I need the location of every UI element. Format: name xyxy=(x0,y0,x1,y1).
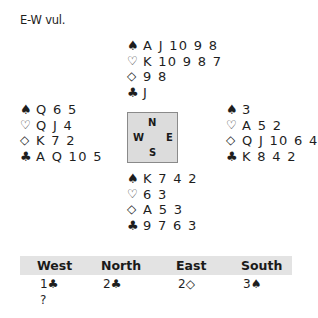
bid-east-1: 2◇ xyxy=(178,277,195,291)
north-hand: ♠ A J 10 9 8 ♡ K 10 9 8 7 ◇ 9 8 ♣ J xyxy=(127,38,222,100)
bid-north-1: 2♣ xyxy=(103,277,121,291)
auction-header-south: South xyxy=(241,258,282,273)
west-hearts-row: ♡ Q J 4 xyxy=(20,118,103,134)
south-hand: ♠ K 7 4 2 ♡ 6 3 ◇ A 5 3 ♣ 9 7 6 3 xyxy=(127,171,198,233)
club-icon: ♣ xyxy=(20,149,36,165)
club-icon: ♣ xyxy=(127,85,143,101)
bid-south-1: 3♠ xyxy=(243,277,261,291)
compass-west: W xyxy=(133,132,144,143)
spade-icon: ♠ xyxy=(226,102,242,118)
compass-east: E xyxy=(166,132,173,143)
west-spades-row: ♠ Q 6 5 xyxy=(20,102,103,118)
north-spades-row: ♠ A J 10 9 8 xyxy=(127,38,222,54)
south-diamonds: A 5 3 xyxy=(143,202,183,218)
east-hearts: A 5 2 xyxy=(242,118,282,134)
club-icon: ♣ xyxy=(127,218,143,234)
east-diamonds-row: ◇ Q J 10 6 4 xyxy=(226,133,318,149)
auction-header: West North East South xyxy=(20,256,292,275)
west-diamonds: K 7 2 xyxy=(36,133,76,149)
south-clubs-row: ♣ 9 7 6 3 xyxy=(127,218,198,234)
compass-box: N W E S xyxy=(127,112,178,163)
east-clubs: K 8 4 2 xyxy=(242,149,297,165)
east-hand: ♠ 3 ♡ A 5 2 ◇ Q J 10 6 4 ♣ K 8 4 2 xyxy=(226,102,318,164)
auction-header-east: East xyxy=(176,258,206,273)
west-diamonds-row: ◇ K 7 2 xyxy=(20,133,103,149)
diamond-icon: ◇ xyxy=(20,133,36,149)
club-icon: ♣ xyxy=(226,149,242,165)
diamond-icon: ◇ xyxy=(127,202,143,218)
east-diamonds: Q J 10 6 4 xyxy=(242,133,318,149)
spade-icon: ♠ xyxy=(127,171,143,187)
south-spades-row: ♠ K 7 4 2 xyxy=(127,171,198,187)
heart-icon: ♡ xyxy=(127,187,143,203)
south-spades: K 7 4 2 xyxy=(143,171,198,187)
south-diamonds-row: ◇ A 5 3 xyxy=(127,202,198,218)
bid-west-2: ? xyxy=(40,293,46,307)
north-diamonds-row: ◇ 9 8 xyxy=(127,69,222,85)
north-diamonds: 9 8 xyxy=(143,69,168,85)
diamond-icon: ◇ xyxy=(127,69,143,85)
west-clubs-row: ♣ A Q 10 5 xyxy=(20,149,103,165)
heart-icon: ♡ xyxy=(20,118,36,134)
heart-icon: ♡ xyxy=(127,54,143,70)
north-spades: A J 10 9 8 xyxy=(143,38,218,54)
west-clubs: A Q 10 5 xyxy=(36,149,103,165)
east-spades-row: ♠ 3 xyxy=(226,102,318,118)
diamond-icon: ◇ xyxy=(226,133,242,149)
south-clubs: 9 7 6 3 xyxy=(143,218,198,234)
east-clubs-row: ♣ K 8 4 2 xyxy=(226,149,318,165)
east-hearts-row: ♡ A 5 2 xyxy=(226,118,318,134)
auction-header-north: North xyxy=(101,258,141,273)
north-clubs: J xyxy=(143,85,148,101)
north-hearts: K 10 9 8 7 xyxy=(143,54,222,70)
north-hearts-row: ♡ K 10 9 8 7 xyxy=(127,54,222,70)
auction-header-west: West xyxy=(37,258,72,273)
compass-south: S xyxy=(149,147,156,158)
spade-icon: ♠ xyxy=(127,38,143,54)
west-hand: ♠ Q 6 5 ♡ Q J 4 ◇ K 7 2 ♣ A Q 10 5 xyxy=(20,102,103,164)
bid-west-1: 1♣ xyxy=(40,277,58,291)
south-hearts-row: ♡ 6 3 xyxy=(127,187,198,203)
heart-icon: ♡ xyxy=(226,118,242,134)
west-hearts: Q J 4 xyxy=(36,118,73,134)
north-clubs-row: ♣ J xyxy=(127,85,222,101)
south-hearts: 6 3 xyxy=(143,187,168,203)
east-spades: 3 xyxy=(242,102,252,118)
compass-north: N xyxy=(148,117,156,128)
west-spades: Q 6 5 xyxy=(36,102,78,118)
spade-icon: ♠ xyxy=(20,102,36,118)
vulnerability-label: E-W vul. xyxy=(20,13,65,27)
